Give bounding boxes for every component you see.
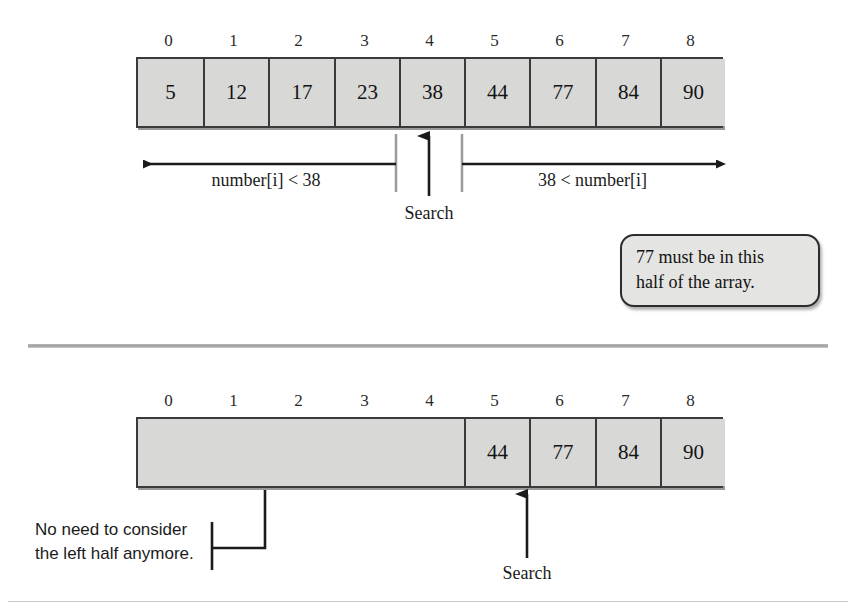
left-half-note-line-2: the left half anymore. bbox=[35, 542, 210, 566]
callout-box: 77 must be in this half of the array. bbox=[620, 234, 820, 307]
top-index-8: 8 bbox=[658, 30, 723, 52]
bottom-array: 44 77 84 90 bbox=[136, 417, 723, 488]
left-half-note-line-1: No need to consider bbox=[35, 518, 210, 542]
callout-line-1: 77 must be in this bbox=[636, 245, 804, 270]
left-range-label: number[i] < 38 bbox=[136, 170, 396, 191]
left-half-note: No need to consider the left half anymor… bbox=[35, 518, 210, 566]
top-index-1: 1 bbox=[201, 30, 266, 52]
bottom-cell-7: 84 bbox=[595, 419, 660, 486]
top-index-4: 4 bbox=[397, 30, 462, 52]
bottom-index-0: 0 bbox=[136, 390, 201, 412]
top-cell-5: 44 bbox=[464, 59, 529, 126]
top-index-6: 6 bbox=[527, 30, 592, 52]
bottom-search-label: Search bbox=[477, 563, 577, 584]
top-array-index-row: 0 1 2 3 4 5 6 7 8 bbox=[136, 30, 723, 52]
bottom-index-4: 4 bbox=[397, 390, 462, 412]
figure-canvas: 0 1 2 3 4 5 6 7 8 5 12 17 23 38 44 77 84… bbox=[0, 0, 858, 611]
bottom-index-6: 6 bbox=[527, 390, 592, 412]
right-range-label: 38 < number[i] bbox=[462, 170, 723, 191]
top-index-5: 5 bbox=[462, 30, 527, 52]
bottom-cell-5: 44 bbox=[464, 419, 529, 486]
top-array: 5 12 17 23 38 44 77 84 90 bbox=[136, 57, 723, 128]
top-cell-6: 77 bbox=[529, 59, 595, 126]
bottom-array-index-row: 0 1 2 3 4 5 6 7 8 bbox=[136, 390, 723, 412]
top-index-7: 7 bbox=[593, 30, 658, 52]
left-half-leader-line bbox=[212, 490, 265, 548]
top-cell-1: 12 bbox=[203, 59, 268, 126]
bottom-index-3: 3 bbox=[332, 390, 397, 412]
bottom-index-1: 1 bbox=[201, 390, 266, 412]
top-cell-3: 23 bbox=[334, 59, 399, 126]
bottom-rule bbox=[8, 601, 848, 602]
top-index-3: 3 bbox=[332, 30, 397, 52]
top-cell-7: 84 bbox=[595, 59, 660, 126]
top-cell-8: 90 bbox=[660, 59, 725, 126]
top-index-2: 2 bbox=[266, 30, 331, 52]
top-cell-4: 38 bbox=[399, 59, 464, 126]
bottom-index-2: 2 bbox=[266, 390, 331, 412]
top-cell-2: 17 bbox=[268, 59, 334, 126]
callout-line-2: half of the array. bbox=[636, 270, 804, 295]
top-index-0: 0 bbox=[136, 30, 201, 52]
bottom-index-5: 5 bbox=[462, 390, 527, 412]
bottom-index-7: 7 bbox=[593, 390, 658, 412]
top-cell-0: 5 bbox=[138, 59, 203, 126]
bottom-cell-6: 77 bbox=[529, 419, 595, 486]
bottom-index-8: 8 bbox=[658, 390, 723, 412]
bottom-cell-blank-span bbox=[138, 419, 464, 486]
panel-separator bbox=[28, 344, 828, 348]
top-search-label: Search bbox=[379, 203, 479, 224]
bottom-cell-8: 90 bbox=[660, 419, 725, 486]
